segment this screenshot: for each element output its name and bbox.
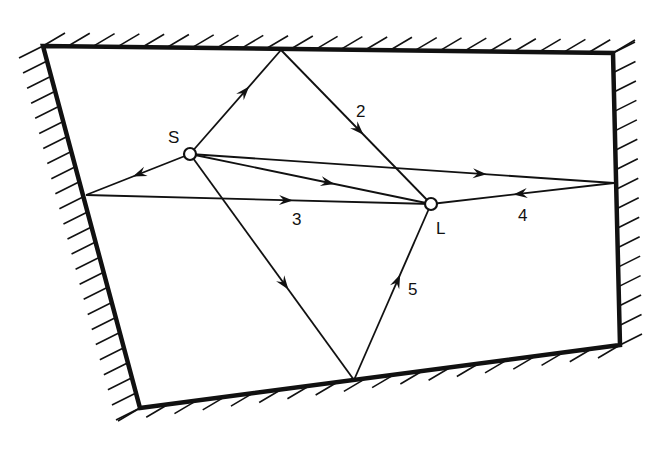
path-5-label: 5 — [408, 280, 417, 299]
arrowheads — [133, 86, 528, 289]
ray-2-incident — [190, 50, 281, 154]
room-reflection-diagram: S L 2 3 4 5 — [0, 0, 670, 456]
path-4-label: 4 — [518, 206, 527, 225]
ray-4-reflected — [431, 183, 614, 204]
ray-2-reflected — [281, 50, 431, 204]
ray-3-reflected — [86, 195, 431, 204]
ray-5-incident — [190, 154, 354, 380]
path-3-label: 3 — [292, 210, 301, 229]
room-walls — [43, 46, 620, 408]
listener-label: L — [436, 219, 445, 238]
source-node — [184, 148, 196, 160]
listener-node — [425, 198, 437, 210]
ray-4-incident — [190, 154, 614, 183]
ray-5-reflected — [354, 204, 431, 380]
source-label: S — [168, 128, 179, 147]
rays — [86, 50, 614, 380]
path-2-label: 2 — [356, 102, 365, 121]
wall-hatching — [19, 33, 642, 421]
